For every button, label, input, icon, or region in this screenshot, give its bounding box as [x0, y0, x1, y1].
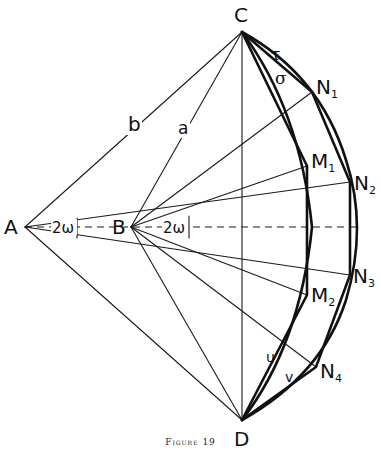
label-A: A [4, 215, 18, 239]
figure-caption: Figure 19 [0, 437, 381, 447]
label-tau: τ [271, 44, 280, 64]
label-sigma: σ [275, 68, 287, 88]
label-N1: N1 [316, 75, 338, 101]
lines-from-B [131, 32, 316, 420]
label-v: v [285, 369, 293, 385]
label-b: b [128, 112, 141, 136]
label-C: C [234, 3, 248, 27]
label-N3: N3 [353, 264, 375, 290]
label-angle-B: 2ω [163, 219, 185, 237]
label-M2: M2 [311, 283, 335, 309]
label-angle-A: 2ω [52, 219, 74, 237]
label-a: a [178, 118, 188, 138]
label-B: B [112, 215, 126, 239]
thick-curves [242, 32, 357, 420]
figure-19-diagram: C D A B N1 M1 N2 N3 M2 N4 b a τ σ u v 2ω… [0, 0, 381, 456]
label-M1: M1 [311, 149, 335, 175]
label-N2: N2 [354, 171, 376, 197]
label-u: u [266, 349, 275, 365]
label-N4: N4 [320, 359, 342, 385]
segment-labels: b a τ σ u v [126, 44, 293, 385]
